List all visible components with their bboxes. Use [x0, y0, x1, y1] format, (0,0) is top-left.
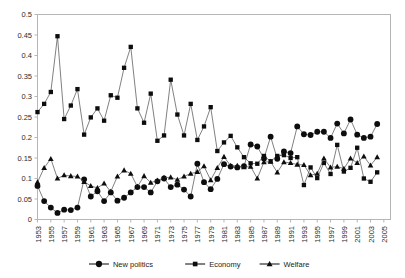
y-tick-label: 0.35 [17, 72, 32, 81]
data-point [195, 138, 199, 142]
x-tick-label: 1967 [127, 226, 136, 243]
data-point [48, 205, 54, 211]
y-tick-label: 0.3 [22, 92, 32, 101]
legend-label: Economy [209, 260, 241, 269]
data-point [314, 129, 320, 135]
data-point [189, 102, 193, 106]
x-tick-label: 1977 [193, 226, 202, 243]
data-point [101, 198, 107, 204]
data-point [308, 132, 314, 138]
data-point [215, 149, 219, 153]
data-point [302, 183, 306, 187]
data-point [242, 155, 246, 159]
data-point [135, 106, 139, 110]
y-tick-label: 0 [28, 215, 32, 224]
x-tick-label: 1965 [113, 226, 122, 243]
data-point [42, 102, 46, 106]
data-point [248, 142, 254, 148]
data-point [361, 135, 367, 141]
data-point [49, 90, 53, 94]
data-point [254, 144, 260, 150]
data-point [175, 112, 179, 116]
data-point [109, 93, 113, 97]
y-tick-label: 0.05 [17, 195, 32, 204]
data-point [208, 186, 214, 192]
data-point [348, 117, 354, 123]
data-point [301, 131, 307, 137]
legend-label: New politics [113, 260, 153, 269]
data-point [255, 162, 259, 166]
data-point [209, 105, 213, 109]
data-point [129, 45, 133, 49]
x-tick-label: 1995 [313, 226, 322, 243]
legend-marker-circle [96, 261, 102, 267]
data-point [334, 121, 340, 127]
data-point [221, 161, 227, 167]
x-tick-label: 1983 [233, 226, 242, 243]
data-point [35, 110, 39, 114]
data-point [55, 210, 61, 216]
data-point [355, 146, 359, 150]
data-point [68, 207, 74, 213]
data-point [149, 91, 153, 95]
data-point [368, 134, 374, 140]
x-tick-label: 1971 [153, 226, 162, 243]
x-tick-label: 2005 [380, 226, 389, 243]
y-tick-label: 0.25 [17, 113, 32, 122]
data-point [121, 195, 127, 201]
x-tick-label: 1969 [140, 226, 149, 243]
data-point [95, 106, 99, 110]
y-tick-label: 0.15 [17, 154, 32, 163]
x-tick-label: 1957 [60, 226, 69, 243]
legend-label: Welfare [284, 260, 310, 269]
data-point [341, 130, 347, 136]
y-tick-label: 0.45 [17, 31, 32, 40]
x-tick-label: 1991 [287, 226, 296, 243]
data-point [354, 132, 360, 138]
x-tick-label: 2003 [367, 226, 376, 243]
data-point [115, 96, 119, 100]
x-tick-label: 1961 [87, 226, 96, 243]
y-tick-label: 0.1 [22, 174, 32, 183]
data-point [268, 134, 274, 140]
data-point [75, 205, 81, 211]
data-point [174, 182, 180, 188]
data-point [88, 194, 94, 200]
data-point [374, 121, 380, 127]
y-tick-label: 0.2 [22, 133, 32, 142]
data-point [222, 140, 226, 144]
x-tick-label: 1993 [300, 226, 309, 243]
data-point [169, 78, 173, 82]
data-point [181, 187, 187, 193]
data-point [142, 121, 146, 125]
data-point [275, 154, 279, 158]
data-point [182, 133, 186, 137]
data-point [321, 129, 327, 135]
x-tick-label: 1955 [47, 226, 56, 243]
data-point [335, 143, 339, 147]
data-point [228, 134, 232, 138]
line-chart: 00.050.10.150.20.250.30.350.40.450.5 195… [0, 0, 405, 278]
data-point [41, 198, 47, 204]
data-point [89, 115, 93, 119]
data-point [315, 176, 319, 180]
x-tick-label: 1989 [273, 226, 282, 243]
data-point [194, 161, 200, 167]
y-tick-label: 0.5 [22, 10, 32, 19]
data-point [55, 34, 59, 38]
data-point [235, 145, 239, 149]
data-point [128, 190, 134, 196]
data-point [282, 153, 286, 157]
data-point [75, 87, 79, 91]
legend-marker-square [193, 262, 198, 267]
data-point [201, 179, 207, 185]
data-point [102, 119, 106, 123]
data-point [168, 184, 174, 190]
data-point [295, 155, 299, 159]
data-point [328, 135, 334, 141]
data-point [148, 190, 154, 196]
data-point [82, 132, 86, 136]
data-point [188, 194, 194, 200]
data-point [62, 117, 66, 121]
data-point [294, 124, 300, 130]
